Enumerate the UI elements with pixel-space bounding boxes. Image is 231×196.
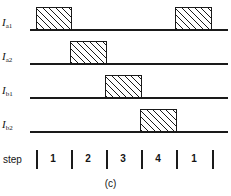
- waveform-baseline: [30, 131, 228, 133]
- step-axis-label: step: [3, 154, 22, 166]
- step-tick: [212, 150, 214, 169]
- waveform-pulse: [140, 109, 177, 132]
- waveform-label-ia2: Ia2: [2, 51, 30, 62]
- step-number: 1: [45, 153, 61, 165]
- waveform-label-ib1: Ib1: [2, 85, 30, 96]
- step-tick: [36, 150, 38, 169]
- waveform-label-ib2: Ib2: [2, 119, 30, 130]
- step-tick: [106, 150, 108, 169]
- step-tick: [71, 150, 73, 169]
- waveform-label-subscript: a2: [6, 56, 13, 64]
- step-number: 2: [80, 153, 96, 165]
- timing-diagram-figure: Ia1Ia2Ib1Ib2 step 12341 (c): [0, 0, 231, 196]
- step-number: 4: [150, 153, 166, 165]
- step-number: 3: [115, 153, 131, 165]
- step-axis: step 12341: [0, 148, 231, 174]
- waveform-row: Ib2: [0, 0, 231, 34]
- waveform-baseline: [30, 63, 228, 65]
- waveform-label-subscript: b1: [6, 90, 13, 98]
- step-number: 1: [186, 153, 202, 165]
- step-tick: [141, 150, 143, 169]
- step-tick: [176, 150, 178, 169]
- waveform-pulse: [105, 75, 142, 98]
- figure-caption: (c): [0, 178, 221, 190]
- waveform-pulse: [70, 41, 107, 64]
- waveform-label-subscript: b2: [6, 124, 13, 132]
